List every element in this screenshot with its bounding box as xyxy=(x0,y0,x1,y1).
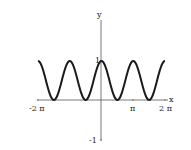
x-axis-label: x xyxy=(169,95,174,104)
tick-label-y1: 1 xyxy=(95,56,100,65)
cos-squared-curve xyxy=(38,61,165,100)
tick-label-yneg1: -1 xyxy=(89,136,97,145)
tick-label-neg2pi: -2 π xyxy=(29,104,45,113)
tick-label-2pi: 2 π xyxy=(159,104,172,113)
plot-area: y x -2 π π 2 π 1 -1 xyxy=(0,0,191,150)
y-axis-label: y xyxy=(96,10,102,19)
tick-label-pi: π xyxy=(130,104,135,113)
